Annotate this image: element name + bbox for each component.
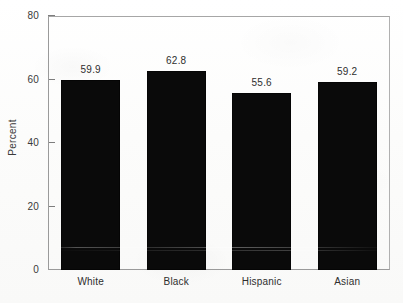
y-tick-40: 40 bbox=[0, 137, 48, 149]
y-tick-label: 20 bbox=[0, 201, 48, 212]
category-label-asian: Asian bbox=[307, 276, 387, 287]
y-tick-label: 80 bbox=[0, 10, 48, 21]
bar-black[interactable] bbox=[147, 71, 206, 270]
bar-asian[interactable] bbox=[318, 82, 377, 270]
bar-white[interactable] bbox=[61, 80, 120, 270]
y-tick-label: 0 bbox=[0, 264, 48, 275]
y-tick-20: 20 bbox=[0, 201, 48, 213]
y-tick-80: 80 bbox=[0, 10, 48, 22]
bar-value-label: 59.2 bbox=[317, 66, 377, 77]
bar-hispanic[interactable] bbox=[232, 93, 291, 270]
y-tick-60: 60 bbox=[0, 74, 48, 86]
bar-value-label: 55.6 bbox=[232, 77, 292, 88]
category-label-hispanic: Hispanic bbox=[222, 276, 302, 287]
y-tick-0: 0 bbox=[0, 264, 48, 276]
bar-chart: Percent 020406080 59.9White62.8Black55.6… bbox=[0, 0, 403, 303]
bar-value-label: 62.8 bbox=[146, 55, 206, 66]
bar-value-label: 59.9 bbox=[61, 64, 121, 75]
category-label-black: Black bbox=[136, 276, 216, 287]
category-label-white: White bbox=[51, 276, 131, 287]
y-tick-label: 60 bbox=[0, 74, 48, 85]
y-tick-label: 40 bbox=[0, 137, 48, 148]
